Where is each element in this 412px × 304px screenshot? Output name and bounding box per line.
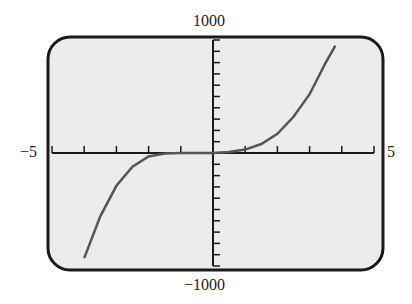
xmin-label: −5 (20, 143, 37, 161)
xmax-label: 5 (387, 143, 395, 161)
ymin-label: −1000 (184, 276, 225, 294)
ymax-label: 1000 (193, 12, 225, 30)
function-plot (0, 0, 412, 304)
